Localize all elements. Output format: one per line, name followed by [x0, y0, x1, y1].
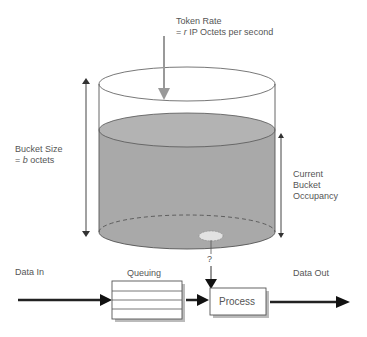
data-in-arrow [18, 294, 112, 306]
token-rate-label: Token Rate = r IP Octets per second [176, 16, 273, 38]
queue-box [112, 281, 185, 322]
data-out-label: Data Out [293, 268, 329, 279]
bucket-hole [199, 231, 223, 241]
data-out-arrow [270, 296, 350, 308]
queuing-label: Queuing [127, 268, 161, 279]
occupancy-label: Current Bucket Occupancy [293, 169, 338, 202]
process-label: Process [219, 296, 255, 307]
bucket-size-arrow [82, 78, 90, 237]
queue-to-process-arrow [186, 294, 209, 306]
question-mark: ? [207, 254, 212, 265]
data-in-label: Data In [15, 267, 44, 278]
occupancy-arrow [278, 133, 284, 238]
bucket-cylinder [99, 67, 275, 249]
bucket-size-label: Bucket Size = b octets [15, 144, 63, 166]
